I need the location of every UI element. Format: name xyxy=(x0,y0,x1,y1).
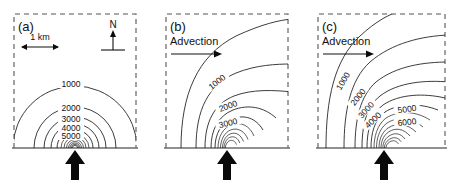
source-arrow-icon xyxy=(374,150,394,180)
north-label: N xyxy=(109,19,116,30)
advection-label: Advection xyxy=(170,35,218,47)
contour-figure: 1000 2000 3000 4000 5000 (a) 1 km N xyxy=(0,0,459,187)
scale-bar-label: 1 km xyxy=(30,32,50,42)
advection-label: Advection xyxy=(322,35,370,47)
source-arrow-icon xyxy=(65,150,85,180)
advection-arrow-icon: Advection xyxy=(170,35,222,58)
source-arrow-icon xyxy=(217,150,237,180)
contour-label-2000: 2000 xyxy=(217,98,238,114)
panel-b: 1000 2000 3000 (b) Advection xyxy=(152,0,302,187)
panel-c: 1000 2000 3000 4000 5000 6000 (c) Advect… xyxy=(304,0,459,187)
contour-label-1000: 1000 xyxy=(62,79,81,89)
advection-arrow-icon: Advection xyxy=(322,35,374,58)
panel-c-label: (c) xyxy=(322,19,337,34)
north-arrow-icon: N xyxy=(101,19,125,50)
contour-label-6000: 6000 xyxy=(397,116,417,128)
panel-b-label: (b) xyxy=(170,19,186,34)
contour-label-5000: 5000 xyxy=(62,131,81,141)
contour-label-2000: 2000 xyxy=(62,103,81,113)
panel-a: 1000 2000 3000 4000 5000 (a) 1 km N xyxy=(0,0,150,187)
scale-bar: 1 km xyxy=(21,32,59,50)
